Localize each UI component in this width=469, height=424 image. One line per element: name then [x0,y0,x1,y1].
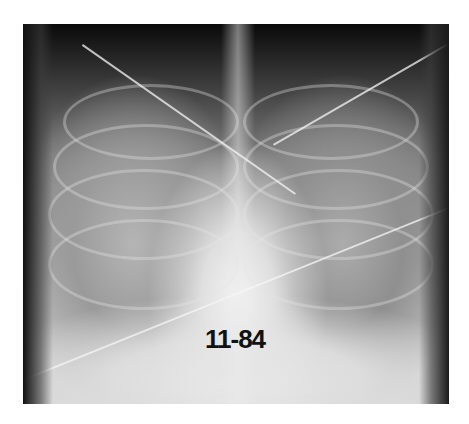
film-edge-left [23,24,53,404]
image-label: 11-84 [205,324,265,355]
film-edge-right [419,24,449,404]
rib-shadow [243,219,434,310]
rib-shadow [48,219,239,310]
